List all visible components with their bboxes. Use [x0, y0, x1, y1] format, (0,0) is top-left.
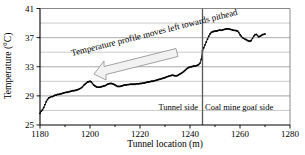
data-point [47, 99, 49, 101]
y-tick-label: 33 [25, 62, 35, 72]
y-tick-label: 25 [25, 120, 35, 130]
chart-canvas: 118012001220124012601280 2529333741 Tunn… [0, 0, 305, 155]
data-point [239, 34, 241, 36]
x-tick-label: 1200 [81, 129, 100, 139]
data-point [198, 64, 200, 66]
y-tick-label: 37 [25, 33, 35, 43]
x-tick-label: 1180 [31, 129, 49, 139]
goaf-side-label: Coal mine goaf side [205, 102, 273, 112]
data-point [257, 34, 259, 36]
x-tick-label: 1260 [231, 129, 250, 139]
data-point [42, 109, 44, 111]
y-axis-title: Temperature (°C) [3, 33, 14, 100]
data-point [208, 35, 210, 37]
data-point [209, 33, 211, 35]
x-tick-label: 1220 [131, 129, 150, 139]
x-tick-label: 1280 [281, 129, 300, 139]
x-tick-label: 1240 [181, 129, 200, 139]
data-point [204, 44, 206, 46]
data-point [238, 32, 240, 34]
y-tick-label: 29 [25, 91, 35, 101]
data-point [240, 35, 242, 37]
data-point [199, 62, 201, 64]
data-point [45, 101, 47, 103]
data-point [90, 81, 92, 83]
data-point [82, 86, 84, 88]
y-tick-label: 41 [25, 4, 34, 14]
x-axis-title: Tunnel location (m) [127, 139, 203, 150]
chart-figure: 118012001220124012601280 2529333741 Tunn… [0, 0, 305, 155]
data-point [205, 41, 207, 43]
data-point [40, 110, 42, 112]
data-point [250, 40, 252, 42]
tunnel-side-label: Tunnel side [158, 102, 198, 112]
data-point [43, 107, 45, 109]
data-point [253, 35, 255, 37]
data-point [207, 38, 209, 40]
data-point [252, 37, 254, 39]
data-point [92, 83, 94, 85]
data-point [237, 30, 239, 32]
data-point [44, 104, 46, 106]
data-point [264, 33, 266, 35]
